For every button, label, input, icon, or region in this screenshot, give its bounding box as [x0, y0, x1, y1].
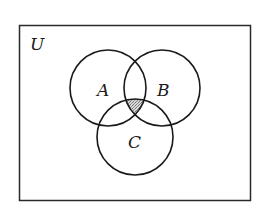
universe-label: U: [30, 34, 45, 54]
venn-diagram: U A B C: [0, 0, 266, 207]
set-c-label: C: [128, 132, 141, 152]
set-b-label: B: [156, 80, 170, 100]
set-a-label: A: [95, 80, 109, 100]
